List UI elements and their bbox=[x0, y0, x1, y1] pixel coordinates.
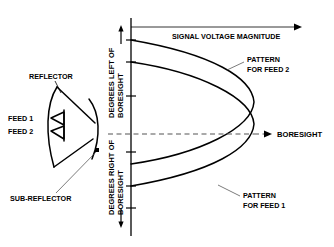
boresight-arrowhead bbox=[264, 131, 272, 138]
reflector-upper-strut bbox=[57, 87, 95, 123]
degrees-left-of-boresight-label: DEGREES LEFT OF BORESIGHT bbox=[107, 47, 125, 118]
boresight-label: BORESIGHT bbox=[277, 130, 323, 139]
pattern-feed-2-label-line-2: FOR FEED 2 bbox=[247, 65, 289, 74]
pattern-feed-1-label-line-2: FOR FEED 1 bbox=[243, 201, 285, 210]
figure-root: REFLECTOR FEED 1 FEED 2 SUB-REFLECTOR bbox=[0, 0, 334, 247]
reflector-leader-line bbox=[55, 81, 61, 93]
degrees-left-arrow bbox=[118, 25, 123, 44]
beam-pattern-plot: SIGNAL VOLTAGE MAGNITUDE DEGREES LEFT OF… bbox=[107, 18, 323, 236]
pattern-feed-2-curve bbox=[131, 62, 254, 186]
degrees-right-line-1: DEGREES RIGHT OF bbox=[107, 140, 116, 215]
feed-2-horn bbox=[51, 126, 64, 139]
feed-1-label: FEED 1 bbox=[8, 114, 33, 123]
sub-reflector-leader-line bbox=[56, 151, 97, 193]
degrees-right-of-boresight-label: DEGREES RIGHT OF BORESIGHT bbox=[107, 140, 125, 215]
antenna-schematic: REFLECTOR FEED 1 FEED 2 SUB-REFLECTOR bbox=[8, 72, 99, 203]
feed-2-label: FEED 2 bbox=[8, 127, 33, 136]
degrees-left-line-2: BORESIGHT bbox=[116, 73, 125, 118]
feed-1-horn bbox=[51, 112, 64, 125]
degrees-right-line-2: BORESIGHT bbox=[116, 170, 125, 215]
antenna-pattern-diagram: REFLECTOR FEED 1 FEED 2 SUB-REFLECTOR bbox=[0, 0, 334, 247]
pattern-feed-1-curve bbox=[131, 40, 254, 164]
signal-voltage-axis bbox=[131, 24, 302, 31]
sub-reflector-leader-dot bbox=[95, 148, 99, 152]
pattern-feed-1-label-line-1: PATTERN bbox=[243, 191, 276, 200]
reflector-label: REFLECTOR bbox=[29, 72, 74, 81]
reflector-lower-strut bbox=[54, 139, 93, 167]
pattern-feed-2-label-line-1: PATTERN bbox=[247, 55, 280, 64]
sub-reflector-label: SUB-REFLECTOR bbox=[10, 194, 72, 203]
degrees-left-line-1: DEGREES LEFT OF bbox=[107, 47, 116, 118]
signal-voltage-magnitude-label: SIGNAL VOLTAGE MAGNITUDE bbox=[172, 32, 280, 41]
main-reflector-arc bbox=[48, 87, 57, 167]
pattern-feed-1-leader-line bbox=[218, 185, 240, 196]
pattern-feed-2-leader-line bbox=[227, 62, 244, 70]
